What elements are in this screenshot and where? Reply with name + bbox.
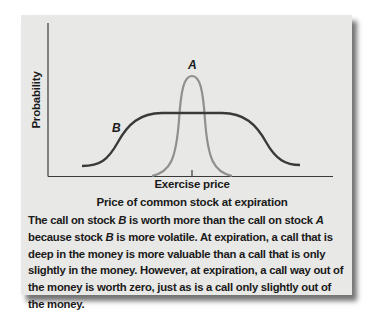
y-axis-label: Probability	[30, 71, 42, 128]
curve-b-label: B	[112, 121, 121, 135]
exercise-price-label: Exercise price	[154, 178, 229, 190]
caption-text: because stock	[28, 231, 106, 243]
curve-a-label: A	[188, 58, 197, 72]
caption-text: The call on stock	[28, 214, 118, 226]
x-axis-label: Price of common stock at expiration	[96, 196, 287, 208]
figure-caption: The call on stock B is worth more than t…	[28, 212, 350, 313]
curve-a	[152, 76, 232, 176]
caption-stock-a: A	[316, 214, 324, 226]
caption-text: is worth more than the call on stock	[126, 214, 316, 226]
